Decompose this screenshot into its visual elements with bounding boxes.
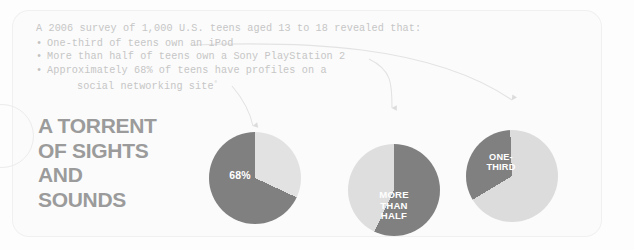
survey-lead: A 2006 survey of 1,000 U.S. teens aged 1… <box>36 22 456 36</box>
pie-chart-ipod: ONE-THIRD <box>466 130 558 222</box>
pie-label-playstation: MORE THAN HALF <box>370 190 418 222</box>
page-title: A TORRENT OF SIGHTS AND SOUNDS <box>38 114 208 212</box>
list-item-continuation-text: social networking site <box>77 82 214 93</box>
pie-chart-playstation: MORE THAN HALF <box>348 144 440 236</box>
bullet-glyph: • <box>36 64 42 78</box>
headline-line-1: A TORRENT <box>38 114 208 139</box>
footnote-marker: ⁰ <box>214 80 218 87</box>
list-item-text: More than half of teens own a Sony PlayS… <box>47 51 345 62</box>
pie-label-ipod: ONE-THIRD <box>478 152 524 173</box>
headline-line-4: SOUNDS <box>38 188 208 213</box>
infographic-canvas: A 2006 survey of 1,000 U.S. teens aged 1… <box>0 0 634 250</box>
bullet-glyph: • <box>36 50 42 64</box>
pie-chart-profiles: 68% <box>209 132 301 224</box>
list-item: •More than half of teens own a Sony Play… <box>36 50 456 64</box>
headline-line-3: AND <box>38 163 208 188</box>
list-item: •One-third of teens own an iPod <box>36 37 456 51</box>
list-item-continuation: social networking site⁰ <box>47 77 456 94</box>
pie-label-profiles: 68% <box>217 170 263 182</box>
survey-copy: A 2006 survey of 1,000 U.S. teens aged 1… <box>36 22 456 94</box>
survey-bullet-list: •One-third of teens own an iPod •More th… <box>36 37 456 95</box>
bullet-glyph: • <box>36 37 42 51</box>
list-item-text: Approximately 68% of teens have profiles… <box>47 65 327 76</box>
list-item: •Approximately 68% of teens have profile… <box>36 64 456 95</box>
list-item-text: One-third of teens own an iPod <box>47 38 233 49</box>
headline-line-2: OF SIGHTS <box>38 139 208 164</box>
